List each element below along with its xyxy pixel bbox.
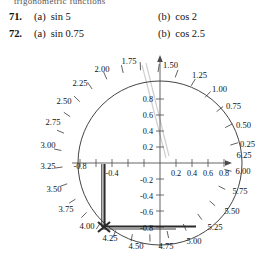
textbook-page-fragment: trigonometric functions 71. (a)sin 5 (b)… — [0, 0, 276, 260]
radian-label-2.75: 2.75 — [45, 117, 60, 127]
radian-label-2.00: 2.00 — [94, 64, 109, 74]
radian-label-5.00: 5.00 — [186, 236, 201, 246]
y-label-neg-0.4: -0.4 — [140, 192, 153, 201]
y-label-0.8: 0.8 — [143, 95, 153, 104]
exercise-72-part-b: (b)cos 2.5 — [158, 26, 205, 42]
exercise-71-part-a-label: (a) — [34, 11, 51, 22]
radian-label-3.50: 3.50 — [46, 184, 61, 194]
radian-label-2.50: 2.50 — [56, 96, 71, 106]
radian-label-6.00: 6.00 — [235, 166, 250, 176]
exercise-number-71: 71. — [9, 9, 22, 25]
y-label-0.4: 0.4 — [143, 127, 153, 136]
y-label-0.6: 0.6 — [143, 111, 153, 120]
x-axis-arrow-icon — [225, 160, 232, 166]
x-label-neg-0.8: -0.8 — [74, 162, 87, 171]
x-label-0.4: 0.4 — [187, 169, 197, 178]
radian-label-0.25: 0.25 — [240, 139, 255, 149]
unit-circle-figure: 0.25 0.50 0.75 1.00 1.25 1.50 1.75 2.00 … — [0, 46, 276, 260]
exercise-72-part-b-text: cos 2.5 — [175, 28, 205, 39]
y-label-neg-0.8: -0.8 — [140, 224, 153, 233]
x-label-neg-0.4: -0.4 — [106, 169, 119, 178]
radian-label-5.75: 5.75 — [232, 186, 247, 196]
exercise-72-part-a-text: sin 0.75 — [51, 28, 84, 39]
cropped-header-text: trigonometric functions — [14, 0, 164, 6]
radian-label-3.25: 3.25 — [40, 161, 55, 171]
radian-label-1.00: 1.00 — [212, 84, 227, 94]
y-label-neg-0.6: -0.6 — [140, 208, 153, 217]
radian-label-1.50: 1.50 — [163, 60, 178, 70]
radian-label-1.25: 1.25 — [192, 70, 207, 80]
radian-label-0.75: 0.75 — [226, 101, 241, 111]
radian-label-0.50: 0.50 — [236, 120, 251, 130]
radian-label-4.00: 4.00 — [79, 221, 94, 231]
exercise-71-part-a-text: sin 5 — [51, 11, 71, 22]
exercise-number-72: 72. — [9, 26, 22, 42]
radian-label-4.25: 4.25 — [102, 233, 117, 243]
exercise-72-part-a-label: (a) — [34, 28, 51, 39]
y-axis-arrow-icon — [157, 55, 163, 62]
exercise-71-part-b-text: cos 2 — [175, 11, 197, 22]
exercise-row-72: 72. (a)sin 0.75 (b)cos 2.5 — [0, 26, 276, 42]
y-label-0.2: 0.2 — [143, 143, 153, 152]
y-label-neg-0.2: -0.2 — [140, 176, 153, 185]
radian-label-4.75: 4.75 — [158, 241, 173, 251]
exercise-71-part-b: (b)cos 2 — [158, 9, 197, 25]
radian-label-3.00: 3.00 — [40, 140, 55, 150]
x-label-0.2: 0.2 — [171, 169, 181, 178]
radian-label-5.25: 5.25 — [207, 222, 222, 232]
radian-label-6.25: 6.25 — [236, 150, 251, 160]
exercise-71-part-a: (a)sin 5 — [34, 9, 71, 25]
radian-label-2.25: 2.25 — [72, 78, 87, 88]
unit-circle-svg: 0.25 0.50 0.75 1.00 1.25 1.50 1.75 2.00 … — [0, 46, 276, 260]
x-label-0.8: 0.8 — [219, 169, 229, 178]
radian-label-1.75: 1.75 — [121, 56, 136, 66]
radian-label-5.50: 5.50 — [224, 206, 239, 216]
exercise-72-part-b-label: (b) — [158, 28, 175, 39]
exercise-72-part-a: (a)sin 0.75 — [34, 26, 84, 42]
x-label-0.6: 0.6 — [203, 169, 213, 178]
radian-label-4.50: 4.50 — [128, 241, 143, 251]
cartesian-axis-labels: 0.2 0.4 0.6 0.8 -0.2 -0.4 -0.6 -0.8 0.2 … — [74, 95, 230, 233]
exercise-row-71: 71. (a)sin 5 (b)cos 2 — [0, 9, 276, 25]
exercise-71-part-b-label: (b) — [158, 11, 175, 22]
radian-label-3.75: 3.75 — [58, 204, 73, 214]
